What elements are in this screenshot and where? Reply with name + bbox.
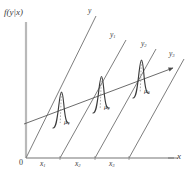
mean-label-mu1-base: μ xyxy=(64,118,68,126)
mean-label-mu1-sub: 1 xyxy=(68,121,70,126)
parallel-line-y xyxy=(26,16,96,158)
parallel-line-y1 xyxy=(60,40,126,158)
tick-label-x2: x2 xyxy=(75,160,81,168)
tick-label-x2-sub: 2 xyxy=(78,163,80,168)
mean-label-mu2-base: μ xyxy=(104,103,108,111)
mean-label-mu1: μ1 xyxy=(64,119,70,126)
x-axis-label: x xyxy=(177,152,181,161)
line-label-y3-sub: 3 xyxy=(172,53,174,58)
mean-label-mu2-sub: 2 xyxy=(108,106,110,111)
line-label-y1: y1 xyxy=(110,31,116,39)
figure-canvas xyxy=(0,0,186,177)
tick-label-x1-sub: 1 xyxy=(43,163,45,168)
mean-label-mu2: μ2 xyxy=(104,104,110,111)
line-label-y: y xyxy=(88,7,91,15)
line-label-y2: y2 xyxy=(141,40,147,48)
tick-label-x3: x3 xyxy=(109,160,115,168)
tick-label-x3-sub: 3 xyxy=(112,163,114,168)
mean-label-mu3: μ3 xyxy=(144,88,150,95)
conditional-distribution-figure: f(y|x) x 0 x1 x2 x3 y y1 y2 y3 μ1 μ2 μ3 xyxy=(0,0,186,177)
mean-label-mu3-sub: 3 xyxy=(148,90,150,95)
mean-label-mu3-base: μ xyxy=(144,87,148,95)
line-label-y2-sub: 2 xyxy=(144,43,146,48)
line-label-y3: y3 xyxy=(169,50,175,58)
tick-label-x1: x1 xyxy=(40,160,46,168)
origin-label: 0 xyxy=(19,159,23,167)
line-label-y1-sub: 1 xyxy=(113,34,115,39)
line-label-y-base: y xyxy=(88,6,91,15)
y-axis-label: f(y|x) xyxy=(4,8,23,17)
